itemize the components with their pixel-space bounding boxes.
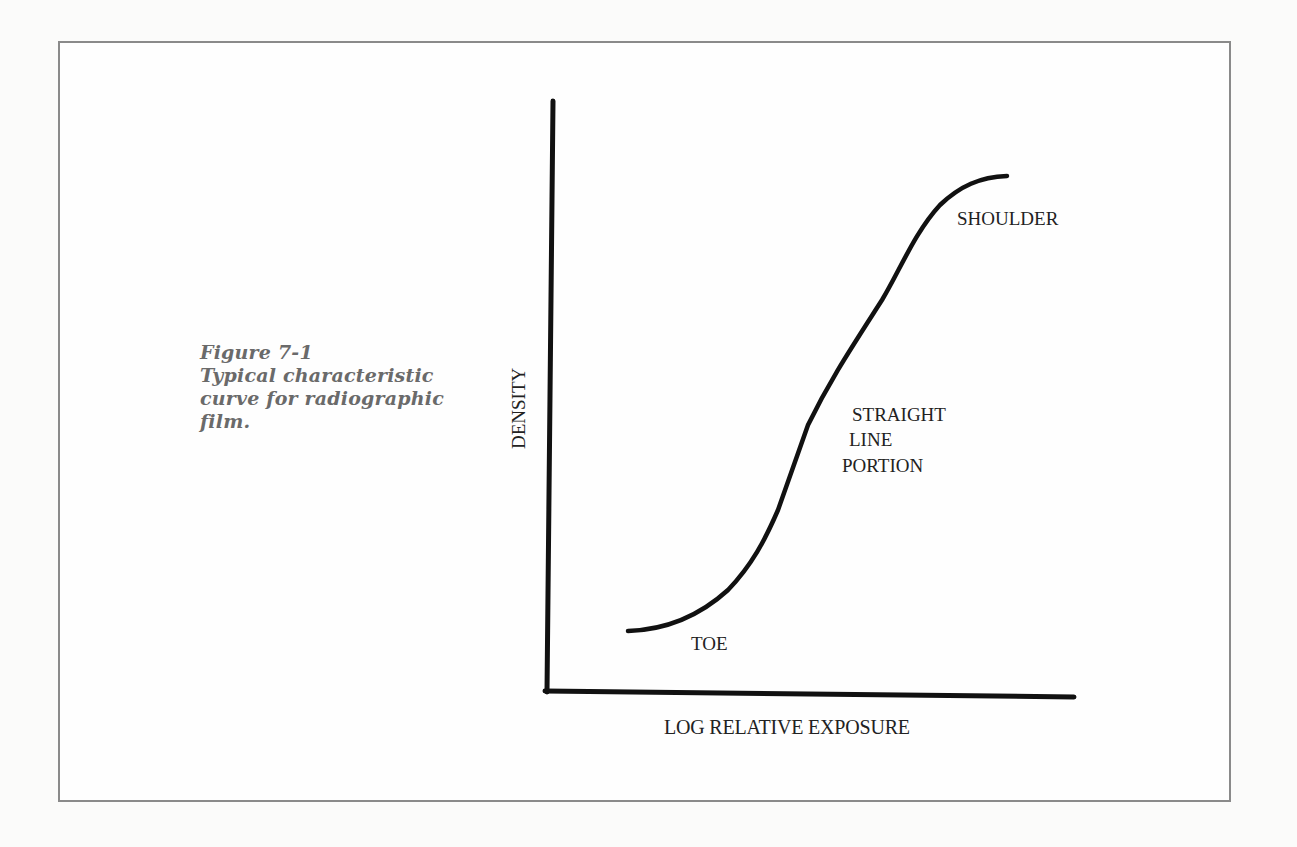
x-axis [545, 691, 1074, 697]
straight-label-line-1: STRAIGHT [852, 405, 946, 424]
characteristic-curve-plot [0, 0, 1297, 847]
characteristic-curve [628, 176, 1007, 631]
y-axis-label: DENSITY [509, 368, 528, 449]
toe-label: TOE [691, 634, 728, 653]
straight-label-line-2: LINE [849, 430, 892, 449]
shoulder-label: SHOULDER [957, 209, 1058, 228]
straight-label-line-3: PORTION [842, 456, 923, 475]
y-axis [547, 101, 553, 692]
x-axis-label: LOG RELATIVE EXPOSURE [664, 718, 910, 737]
